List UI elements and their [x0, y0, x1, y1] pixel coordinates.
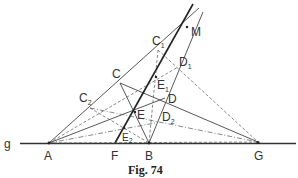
label-B: B	[145, 149, 153, 163]
geometry-diagram: g A F B G M C C1 C2 D D1 D2 E E1 E2 Fig.…	[0, 0, 298, 178]
label-G: G	[254, 149, 263, 163]
dashdot-lines	[49, 108, 258, 143]
label-g: g	[4, 137, 11, 151]
label-A: A	[44, 149, 52, 163]
label-C1: C1	[152, 34, 165, 49]
label-C: C	[112, 67, 121, 81]
label-D: D	[168, 92, 177, 106]
label-E1: E1	[157, 78, 169, 93]
label-D2: D2	[162, 110, 175, 125]
label-D1: D1	[179, 55, 192, 70]
label-F: F	[111, 149, 118, 163]
label-C2: C2	[79, 91, 92, 106]
label-M: M	[191, 25, 201, 39]
label-E: E	[137, 108, 145, 122]
figure-caption: Fig. 74	[128, 163, 163, 177]
label-E2: E2	[122, 132, 133, 144]
